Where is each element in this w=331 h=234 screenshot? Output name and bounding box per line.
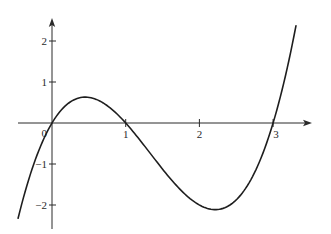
x-tick-label: 2 [197, 128, 203, 140]
y-tick: −1 [35, 158, 56, 170]
function-curve [18, 26, 296, 218]
y-tick-label: 2 [42, 35, 48, 47]
x-axis-ticks: 123 [123, 119, 279, 140]
y-tick: 2 [42, 35, 57, 47]
y-tick-label: −2 [35, 199, 47, 211]
x-tick: 2 [197, 119, 203, 140]
x-tick-label: 1 [123, 128, 129, 140]
cubic-function-plot: 123 −2−112 0 [0, 0, 331, 234]
y-tick: 1 [42, 76, 57, 88]
y-tick: −2 [35, 199, 56, 211]
x-tick-label: 3 [273, 128, 279, 140]
y-tick-label: −1 [35, 158, 47, 170]
y-tick-label: 1 [42, 76, 48, 88]
